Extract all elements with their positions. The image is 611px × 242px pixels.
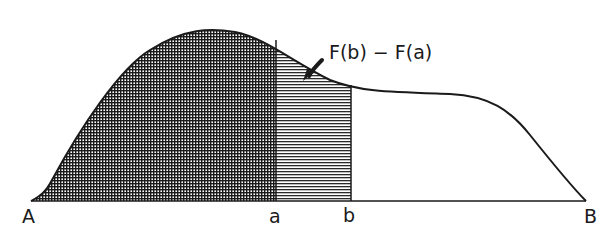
label-b: b <box>343 206 355 225</box>
density-curve-diagram <box>0 0 611 242</box>
annotation-label: F(b) − F(a) <box>329 43 432 62</box>
label-B: B <box>584 207 597 226</box>
label-A: A <box>22 207 35 226</box>
area-a-region <box>31 0 276 201</box>
label-a: a <box>269 207 281 226</box>
area-ab-region <box>276 0 351 201</box>
